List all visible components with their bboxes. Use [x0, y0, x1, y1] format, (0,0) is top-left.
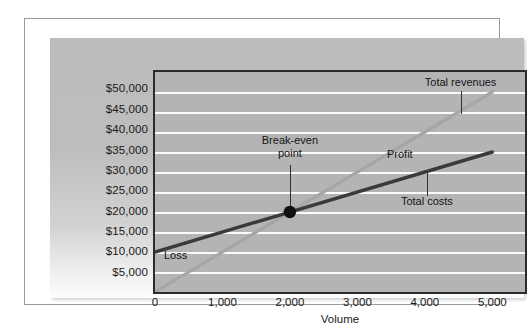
y-tick-20000: $20,000 — [70, 205, 148, 217]
series-total-revenues-line — [155, 92, 492, 292]
break-even-leader-line — [290, 165, 291, 211]
x-tick-5000: 5,000 — [478, 296, 507, 308]
annotation-total-revenues: Total revenues — [425, 76, 497, 89]
chart-panel: $50,000 $45,000 $40,000 $35,000 $30,000 … — [50, 38, 524, 298]
y-tick-5000: $5,000 — [70, 266, 148, 278]
x-tick-4000: 4,000 — [410, 296, 439, 308]
x-tick-0: 0 — [152, 296, 158, 308]
y-tick-15000: $15,000 — [70, 225, 148, 237]
annotation-break-even-point: Break-even point — [262, 134, 318, 160]
x-tick-1000: 1,000 — [208, 296, 237, 308]
x-tick-3000: 3,000 — [343, 296, 372, 308]
plot-area: Total revenues Break-even point Profit T… — [153, 70, 527, 294]
y-axis-tick-labels: $50,000 $45,000 $40,000 $35,000 $30,000 … — [66, 70, 148, 294]
y-tick-10000: $10,000 — [70, 245, 148, 257]
y-tick-50000: $50,000 — [70, 82, 148, 94]
annotation-loss: Loss — [164, 249, 187, 262]
x-axis-title: Volume — [153, 313, 527, 325]
series-lines — [155, 72, 526, 292]
total-revenues-leader-line — [461, 91, 462, 114]
figure-card: $50,000 $45,000 $40,000 $35,000 $30,000 … — [24, 18, 500, 305]
plot-inner: Total revenues Break-even point Profit T… — [155, 72, 525, 292]
y-tick-35000: $35,000 — [70, 144, 148, 156]
y-tick-40000: $40,000 — [70, 123, 148, 135]
y-tick-25000: $25,000 — [70, 184, 148, 196]
x-tick-2000: 2,000 — [276, 296, 305, 308]
annotation-total-costs: Total costs — [401, 195, 453, 208]
annotation-break-even-line1: Break-even — [262, 134, 318, 147]
total-costs-leader-line — [427, 172, 428, 196]
annotation-profit: Profit — [387, 148, 413, 161]
y-tick-30000: $30,000 — [70, 164, 148, 176]
y-tick-45000: $45,000 — [70, 103, 148, 115]
annotation-break-even-line2: point — [262, 147, 318, 160]
